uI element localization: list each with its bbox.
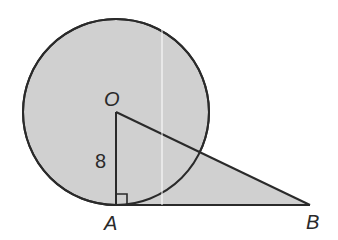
- label-O: O: [104, 88, 120, 110]
- label-A: A: [103, 212, 117, 234]
- scan-stripe: [161, 20, 163, 205]
- label-OA-length: 8: [95, 150, 106, 172]
- label-B: B: [306, 211, 319, 233]
- tangent-circle-diagram: O 8 A B: [0, 0, 338, 240]
